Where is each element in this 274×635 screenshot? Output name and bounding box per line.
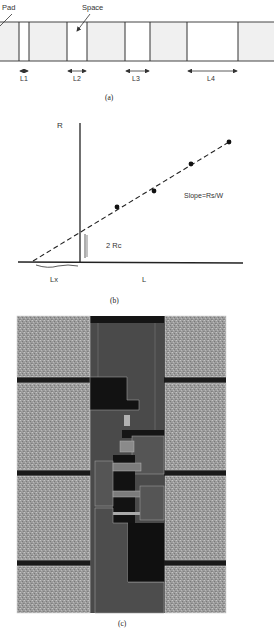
data-point: [189, 162, 194, 167]
caption-a: (a): [105, 93, 114, 102]
space-label: Space: [82, 3, 103, 12]
center-column-top-dark: [90, 316, 164, 323]
pad-left-2: [17, 383, 90, 470]
x-axis-label: L: [142, 275, 146, 284]
spacing-label-l2: L2: [73, 75, 81, 82]
spacing-label-l4: L4: [207, 75, 215, 82]
caption-b: (b): [110, 296, 119, 305]
gate-finger: [113, 463, 141, 471]
pad-left-1: [17, 316, 90, 377]
pad-label: Pad: [2, 3, 15, 12]
pad: [87, 22, 125, 61]
gate-finger: [113, 512, 141, 515]
via: [124, 415, 130, 426]
gray-block-left: [95, 461, 113, 506]
figure: Pad Space L1 L2 L3 L4 (a) R Slope=Rs/W 2…: [0, 0, 274, 635]
pad: [238, 22, 274, 61]
contact-block: [120, 441, 134, 452]
data-point: [152, 189, 157, 194]
panel-a-tlm-structure: Pad Space L1 L2 L3 L4 (a): [0, 3, 274, 102]
y-axis-label: R: [57, 121, 63, 130]
pad-right-1: [165, 316, 226, 377]
pad: [0, 22, 19, 61]
pad-right-4: [165, 566, 226, 613]
data-point: [227, 140, 232, 145]
lx-brace: [36, 265, 78, 267]
panel-c-layout: (c): [17, 316, 226, 628]
pad: [150, 22, 187, 61]
dark-block-lower: [128, 523, 164, 582]
x-intercept-label: Lx: [50, 275, 58, 284]
intercept-label: 2 Rc: [106, 241, 122, 250]
pad-left-4: [17, 566, 90, 613]
spacing-label-l1: L1: [20, 75, 28, 82]
x-axis: [18, 262, 243, 263]
pad-right-2: [165, 383, 226, 470]
gate-finger: [113, 491, 141, 497]
pad-left-3: [17, 476, 90, 560]
pad-right-3: [165, 476, 226, 560]
slope-label: Slope=Rs/W: [184, 192, 223, 200]
panel-b-tlm-plot: R Slope=Rs/W 2 Rc Lx L (b): [18, 121, 243, 305]
data-point: [115, 205, 120, 210]
fit-line-dashed: [33, 142, 229, 261]
caption-c: (c): [118, 619, 127, 628]
pad: [29, 22, 67, 61]
spacing-label-l3: L3: [132, 75, 140, 82]
gray-block-right-lower: [140, 486, 164, 520]
